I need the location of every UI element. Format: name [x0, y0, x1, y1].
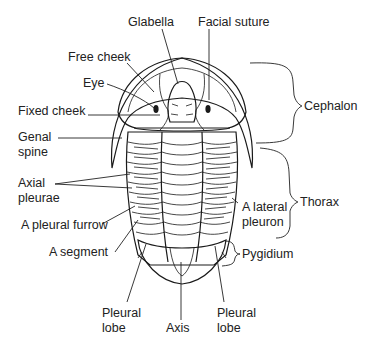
label-pleural-lobe-left-line2: lobe	[102, 321, 126, 335]
thorax	[126, 132, 237, 265]
pygidium	[138, 240, 226, 284]
label-glabella: Glabella	[128, 15, 174, 29]
trilobite-diagram: Glabella Facial suture Free cheek Eye Fi…	[0, 0, 375, 350]
label-axial-pleurae-line2: pleurae	[18, 191, 60, 205]
label-pleural-lobe-left-line1: Pleural	[102, 306, 141, 320]
label-eye: Eye	[83, 76, 105, 90]
label-pleural-lobe-right-line2: lobe	[217, 321, 241, 335]
label-fixed-cheek: Fixed cheek	[18, 104, 86, 118]
cephalon-brace	[250, 63, 302, 143]
cephalon-shield	[112, 58, 253, 168]
label-axis: Axis	[166, 321, 190, 335]
label-axial-pleurae-line1: Axial	[18, 176, 45, 190]
label-free-cheek: Free cheek	[68, 50, 131, 64]
pygidium-brace	[222, 241, 240, 266]
label-pleural-furrow: A pleural furrow	[21, 218, 109, 232]
glabella	[168, 82, 196, 123]
label-cephalon: Cephalon	[304, 99, 358, 113]
label-segment: A segment	[49, 245, 109, 259]
cephalon	[118, 58, 246, 128]
label-pleural-lobe-right-line1: Pleural	[217, 306, 256, 320]
label-pygidium: Pygidium	[242, 247, 293, 261]
label-lateral-pleuron-line1: A lateral	[242, 200, 287, 214]
label-genal-spine-line2: spine	[18, 145, 48, 159]
label-facial-suture: Facial suture	[198, 15, 270, 29]
label-lateral-pleuron-line2: pleuron	[242, 215, 284, 229]
eye-right	[205, 105, 210, 113]
label-thorax: Thorax	[300, 195, 340, 209]
eye-left	[153, 105, 158, 113]
trilobite-illustration	[112, 58, 253, 284]
label-genal-spine-line1: Genal	[18, 130, 51, 144]
